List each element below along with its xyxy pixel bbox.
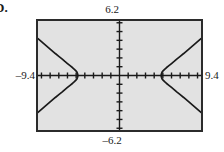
- window-ymin-label: –6.2: [0, 134, 224, 146]
- axes-group: [38, 21, 201, 130]
- calculator-viewport: [36, 19, 203, 132]
- window-xmax-label: 9.4: [205, 69, 224, 81]
- screenshot-root: D. 6.2 –9.4 9.4 –6.2: [0, 0, 224, 152]
- window-ymax-label: 6.2: [0, 3, 224, 15]
- window-xmin-label: –9.4: [2, 69, 35, 81]
- hyperbola-plot: [38, 21, 201, 130]
